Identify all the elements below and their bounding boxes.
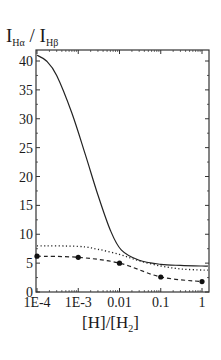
y-tick-label: 5: [26, 256, 33, 271]
y-tick-label: 20: [19, 170, 33, 185]
x-tick-label: 0.1: [152, 295, 170, 310]
x-tick-label: 1: [199, 295, 206, 310]
series-line-dashed-markers: [37, 256, 202, 281]
x-tick-label: 1E-4: [23, 295, 50, 310]
series-line-solid: [37, 55, 208, 266]
data-point-marker: [158, 274, 163, 279]
data-point-marker: [117, 261, 122, 266]
x-tick-label: 1E-3: [65, 295, 92, 310]
data-point-marker: [34, 254, 39, 259]
y-tick-label: 30: [19, 112, 33, 127]
y-tick-label: 35: [19, 83, 33, 98]
y-tick-label: 15: [19, 198, 33, 213]
x-axis-label: [H]/[H2]: [0, 313, 221, 334]
chart-plot-area: 05101520253035401E-41E-30.010.11: [0, 0, 221, 360]
y-tick-label: 10: [19, 227, 33, 242]
x-tick-label: 0.01: [107, 295, 132, 310]
y-tick-label: 40: [19, 54, 33, 69]
y-tick-label: 25: [19, 141, 33, 156]
data-point-marker: [199, 279, 204, 284]
data-point-marker: [76, 255, 81, 260]
series-line-dotted: [37, 246, 208, 270]
